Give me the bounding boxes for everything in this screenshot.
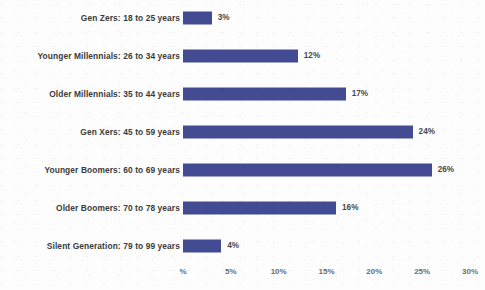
bar-group: 26% <box>183 164 454 177</box>
x-axis-tick-label: 30% <box>462 268 478 276</box>
bar-value-label: 26% <box>438 166 454 174</box>
bar-value-label: 24% <box>419 128 435 136</box>
bar-chart: Gen Zers: 18 to 25 years3%Younger Millen… <box>0 0 485 290</box>
bar <box>183 164 432 177</box>
category-label: Younger Boomers: 60 to 69 years <box>44 166 180 174</box>
x-axis: %5%10%15%20%25%30% <box>183 268 470 284</box>
bar <box>183 88 346 101</box>
bar-group: 4% <box>183 240 239 253</box>
x-axis-tick-label: 5% <box>225 268 237 276</box>
bar-value-label: 16% <box>342 204 358 212</box>
category-label: Silent Generation: 79 to 99 years <box>47 242 180 250</box>
chart-row: Older Boomers: 70 to 78 years16% <box>0 189 485 227</box>
chart-row: Older Millennials: 35 to 44 years17% <box>0 75 485 113</box>
bar-value-label: 17% <box>352 90 368 98</box>
chart-row: Younger Boomers: 60 to 69 years26% <box>0 151 485 189</box>
x-axis-tick-label: 15% <box>318 268 334 276</box>
bar <box>183 126 413 139</box>
bar <box>183 240 221 253</box>
bar-value-label: 12% <box>304 52 320 60</box>
x-axis-tick-label: 10% <box>271 268 287 276</box>
bar-group: 3% <box>183 12 230 25</box>
chart-row: Gen Zers: 18 to 25 years3% <box>0 0 485 37</box>
chart-row: Younger Millennials: 26 to 34 years12% <box>0 37 485 75</box>
x-axis-tick-label: 25% <box>414 268 430 276</box>
x-axis-tick-label: % <box>179 268 186 276</box>
bar-group: 16% <box>183 202 358 215</box>
bar <box>183 12 212 25</box>
category-label: Older Millennials: 35 to 44 years <box>49 90 180 98</box>
category-label: Gen Zers: 18 to 25 years <box>81 14 180 22</box>
category-label: Younger Millennials: 26 to 34 years <box>37 52 180 60</box>
chart-row: Gen Xers: 45 to 59 years24% <box>0 113 485 151</box>
bar-group: 17% <box>183 88 368 101</box>
chart-row: Silent Generation: 79 to 99 years4% <box>0 227 485 265</box>
bar <box>183 202 336 215</box>
x-axis-tick-label: 20% <box>366 268 382 276</box>
bar-group: 12% <box>183 50 320 63</box>
category-label: Gen Xers: 45 to 59 years <box>80 128 180 136</box>
bar <box>183 50 298 63</box>
bar-value-label: 4% <box>227 242 239 250</box>
category-label: Older Boomers: 70 to 78 years <box>56 204 180 212</box>
bar-value-label: 3% <box>218 14 230 22</box>
bar-group: 24% <box>183 126 435 139</box>
